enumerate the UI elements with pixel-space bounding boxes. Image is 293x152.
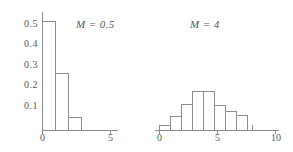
y-tick-label-0-3: 0.3 [12, 59, 38, 70]
x-tick-label-5: 5 [104, 132, 117, 143]
x-tick-label-0: 0 [36, 132, 49, 143]
histogram-bar [68, 117, 82, 130]
x-tick-label-0: 0 [153, 132, 166, 143]
chart-panel-m-0-5: M = 0.5 0.1 0.2 0.3 0.4 0.5 0 5 [0, 0, 150, 152]
plot-area-right [159, 12, 279, 130]
histogram-bar [42, 21, 56, 130]
y-tick-label-0-2: 0.2 [12, 79, 38, 90]
x-tick-label-5: 5 [211, 132, 224, 143]
chart-panel-m-4: M = 4 0 5 10 [150, 0, 293, 152]
y-tick-label-0-5: 0.5 [12, 18, 38, 29]
x-axis-line [42, 130, 118, 131]
histogram-bar [236, 115, 248, 130]
y-tick-label-0-4: 0.4 [12, 38, 38, 49]
histogram-bar [55, 73, 69, 130]
x-tick-label-10: 10 [268, 132, 284, 143]
plot-area-left [42, 12, 132, 130]
figure-histograms: M = 0.5 0.1 0.2 0.3 0.4 0.5 0 5 M = 4 [0, 0, 293, 152]
y-tick-label-0-1: 0.1 [12, 100, 38, 111]
